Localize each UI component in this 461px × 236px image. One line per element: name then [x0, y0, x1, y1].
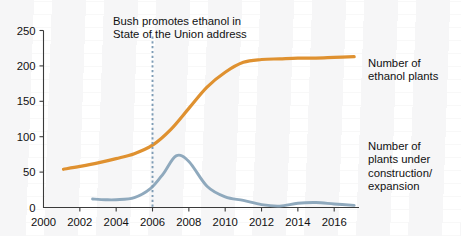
x-tick-label: 2010	[213, 216, 238, 228]
chart-series-layer	[63, 57, 354, 206]
y-tick-label: 250	[17, 25, 36, 37]
legend-label-plants-under-construction: Number of plants under construction/ exp…	[368, 140, 432, 194]
x-tick-label: 2002	[67, 216, 92, 228]
x-tick-label: 2004	[104, 216, 129, 228]
bush-ethanol-annotation-text: Bush promotes ethanol in State of the Un…	[113, 15, 247, 42]
y-tick-label: 0	[29, 202, 35, 214]
y-tick-label: 150	[17, 95, 36, 107]
x-tick-label: 2000	[31, 216, 56, 228]
x-tick-label: 2012	[249, 216, 274, 228]
series-line-plants-under-construction	[93, 155, 355, 206]
y-tick-label: 50	[23, 166, 36, 178]
x-tick-label: 2008	[176, 216, 201, 228]
x-tick-label: 2016	[322, 216, 347, 228]
chart-figure: 0501001502002502000200220042006200820102…	[0, 0, 461, 236]
x-tick-label: 2006	[140, 216, 165, 228]
y-tick-label: 100	[17, 131, 36, 143]
y-tick-label: 200	[17, 60, 36, 72]
x-tick-label: 2014	[285, 216, 310, 228]
chart-tick-labels: 0501001502002502000200220042006200820102…	[17, 25, 347, 228]
series-line-ethanol-plants	[63, 57, 354, 170]
legend-label-ethanol-plants: Number of ethanol plants	[368, 57, 438, 84]
